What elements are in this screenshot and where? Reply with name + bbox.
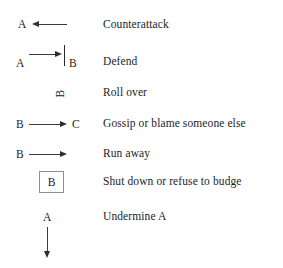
node-letter-b: B (69, 58, 77, 70)
label-run-away: Run away (103, 148, 150, 160)
legend-row-roll-over: B Roll over (0, 82, 283, 112)
legend-row-gossip: B C Gossip or blame someone else (0, 112, 283, 142)
notation-legend: A Counterattack A B Defend B Roll over B… (0, 0, 283, 268)
node-letter-a: A (18, 19, 26, 31)
symbol-counterattack: A (0, 10, 100, 40)
label-roll-over: Roll over (103, 87, 147, 99)
legend-row-counterattack: A Counterattack (0, 10, 283, 40)
label-defend: Defend (103, 56, 137, 68)
label-counterattack: Counterattack (103, 19, 169, 31)
legend-row-run-away: B Run away (0, 142, 283, 172)
arrow-shaft-vertical (47, 227, 48, 253)
symbol-run-away: B (0, 142, 100, 172)
legend-row-shut-down: B Shut down or refuse to budge (0, 170, 283, 200)
arrow-shaft (29, 124, 61, 125)
arrow-shaft (29, 154, 61, 155)
node-letter-b-rotated: B (55, 90, 67, 98)
symbol-defend: A B (0, 45, 100, 75)
node-letter-a: A (43, 212, 51, 224)
symbol-shut-down: B (0, 170, 100, 200)
label-gossip: Gossip or blame someone else (103, 118, 246, 130)
symbol-undermine: A (0, 205, 100, 260)
legend-row-undermine: A Undermine A (0, 205, 283, 260)
node-letter-c: C (72, 119, 80, 131)
symbol-roll-over: B (0, 82, 100, 112)
arrowhead-right-icon (60, 121, 67, 127)
node-letter-a: A (16, 58, 24, 70)
barrier-bar-icon (64, 45, 65, 66)
arrow-shaft (38, 24, 67, 25)
arrowhead-right-icon (55, 51, 62, 57)
node-letter-b-boxed: B (39, 171, 64, 193)
label-shut-down: Shut down or refuse to budge (103, 176, 242, 188)
symbol-gossip: B C (0, 112, 100, 142)
arrowhead-down-icon (44, 251, 50, 258)
label-undermine: Undermine A (103, 211, 166, 223)
legend-row-defend: A B Defend (0, 45, 283, 75)
node-letter-b: B (16, 119, 24, 131)
arrowhead-right-icon (60, 151, 67, 157)
arrow-shaft (29, 54, 56, 55)
node-letter-b: B (16, 149, 24, 161)
